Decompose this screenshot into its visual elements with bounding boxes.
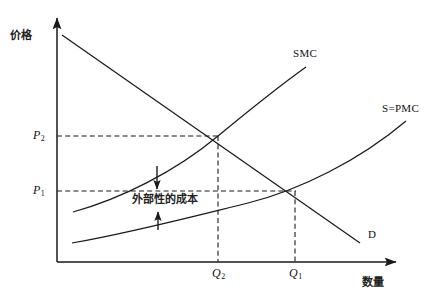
quantity-tick-q2: Q2 xyxy=(212,267,225,279)
q2-symbol: Q xyxy=(212,266,221,280)
q1-symbol: Q xyxy=(289,266,298,280)
price-tick-p2: P2 xyxy=(33,129,44,141)
pmc-curve xyxy=(72,121,406,243)
diagram-canvas xyxy=(0,0,426,301)
x-axis-label: 数量 xyxy=(362,277,384,288)
p1-subscript: 1 xyxy=(41,189,45,198)
q2-subscript: 2 xyxy=(221,272,225,281)
quantity-tick-q1: Q1 xyxy=(289,267,302,279)
smc-curve xyxy=(73,67,306,212)
price-tick-p1: P1 xyxy=(33,184,44,196)
p1-symbol: P xyxy=(33,183,40,197)
externality-cost-annotation: 外部性的成本 xyxy=(132,194,198,205)
q1-subscript: 1 xyxy=(298,272,302,281)
y-axis-label: 价格 xyxy=(10,30,32,41)
demand-curve-label: D xyxy=(368,229,376,240)
externality-cost-diagram: 价格 数量 P2 P1 Q2 Q1 SMC S=PMC D 外部性的成本 xyxy=(0,0,426,301)
smc-curve-label: SMC xyxy=(293,48,317,59)
p2-subscript: 2 xyxy=(41,134,45,143)
p2-symbol: P xyxy=(33,128,40,142)
pmc-curve-label: S=PMC xyxy=(382,103,419,114)
